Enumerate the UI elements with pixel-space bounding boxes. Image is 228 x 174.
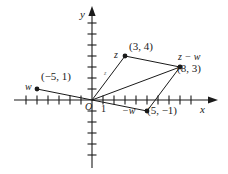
origin-label: O xyxy=(85,102,92,112)
x-axis-label: x xyxy=(200,104,205,115)
segment-origin-to-w xyxy=(37,89,92,100)
y-axis-arrowhead xyxy=(88,6,95,16)
label-negw-coord: (5, −1) xyxy=(147,105,177,116)
point-dot-z xyxy=(123,54,128,59)
label-z-name: z xyxy=(114,50,118,60)
label-z-minus-w-name: z − w xyxy=(178,52,200,62)
point-dot-w xyxy=(35,87,40,92)
y-axis-label: y xyxy=(80,9,85,20)
label-w-name: w xyxy=(25,82,32,92)
label-negw-name: −w xyxy=(122,106,135,116)
unit-label: 1 xyxy=(101,104,106,114)
diagram-canvas xyxy=(0,0,228,174)
label-z-minus-w-coord: (8, 3) xyxy=(177,63,201,74)
x-axis-arrowhead xyxy=(208,96,218,103)
label-z-coord: (3, 4) xyxy=(129,41,153,52)
segment-z-to-z-minus-w xyxy=(125,56,180,67)
vector-diagram: x y O 1 z (3, 4) z w (−5, 1) −w (5, −1) … xyxy=(0,0,228,174)
label-w-coord: (−5, 1) xyxy=(41,71,71,82)
label-vector-z-tick: z xyxy=(104,70,106,76)
